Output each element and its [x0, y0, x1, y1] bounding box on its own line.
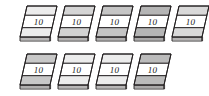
bundle-graphic: 10 — [132, 52, 170, 92]
bundle-band-top — [101, 6, 133, 15]
bundle-band-top — [63, 6, 95, 15]
bundle-side — [126, 85, 127, 89]
bundle-side — [50, 85, 51, 89]
bundle-graphic: 10 — [18, 52, 56, 92]
bundle-graphic: 10 — [94, 52, 132, 92]
bundle-graphic: 10 — [132, 4, 170, 44]
denomination-label: 10 — [110, 17, 120, 27]
bundle-band-top — [101, 54, 133, 63]
bundle-band-top — [139, 6, 171, 15]
bundle-row-bottom: 10 10 10 10 — [0, 48, 209, 96]
bundle-band-top — [63, 54, 95, 63]
bundle-edge — [58, 85, 88, 89]
denomination-label: 10 — [148, 65, 158, 75]
bundle-graphic: 10 — [56, 4, 94, 44]
money-bundle-10: 10 — [56, 52, 94, 92]
bundle-side — [126, 37, 127, 41]
bundle-side — [202, 37, 203, 41]
bundle-band-bottom — [134, 28, 166, 37]
bundle-side — [88, 85, 89, 89]
bundle-side — [88, 37, 89, 41]
bundle-edge — [20, 37, 50, 41]
denomination-label: 10 — [148, 17, 158, 27]
bundle-side — [164, 85, 165, 89]
money-bundle-10: 10 — [18, 52, 56, 92]
money-bundle-10: 10 — [56, 4, 94, 44]
bundle-graphic: 10 — [94, 4, 132, 44]
bundle-edge — [134, 85, 164, 89]
denomination-label: 10 — [34, 65, 44, 75]
bundle-band-bottom — [58, 28, 90, 37]
money-bundle-10: 10 — [94, 4, 132, 44]
bundle-edge — [172, 37, 202, 41]
bundle-band-bottom — [96, 76, 128, 85]
bundle-band-bottom — [134, 76, 166, 85]
money-bundle-10: 10 — [132, 52, 170, 92]
money-bundle-10: 10 — [132, 4, 170, 44]
bundle-band-bottom — [172, 28, 204, 37]
bundle-edge — [58, 37, 88, 41]
bundle-band-top — [25, 6, 57, 15]
bundle-edge — [134, 37, 164, 41]
bundle-row-top: 10 10 10 10 10 — [0, 0, 209, 48]
bundle-band-top — [25, 54, 57, 63]
denomination-label: 10 — [34, 17, 44, 27]
money-bundle-10: 10 — [18, 4, 56, 44]
bundle-edge — [20, 85, 50, 89]
bundle-graphic: 10 — [170, 4, 208, 44]
bundle-band-top — [177, 6, 209, 15]
bundle-graphic: 10 — [56, 52, 94, 92]
bundle-graphic: 10 — [18, 4, 56, 44]
denomination-label: 10 — [72, 65, 82, 75]
denomination-label: 10 — [72, 17, 82, 27]
denomination-label: 10 — [110, 65, 120, 75]
bundle-band-bottom — [20, 76, 52, 85]
bundle-edge — [96, 37, 126, 41]
money-bundle-10: 10 — [94, 52, 132, 92]
bundle-band-bottom — [20, 28, 52, 37]
bundle-side — [50, 37, 51, 41]
bundle-band-bottom — [96, 28, 128, 37]
money-bundle-10: 10 — [170, 4, 208, 44]
bundle-side — [164, 37, 165, 41]
bundle-band-top — [139, 54, 171, 63]
denomination-label: 10 — [186, 17, 196, 27]
illustration-canvas: 10 10 10 10 10 10 10 10 10 — [0, 0, 209, 96]
bundle-band-bottom — [58, 76, 90, 85]
bundle-edge — [96, 85, 126, 89]
